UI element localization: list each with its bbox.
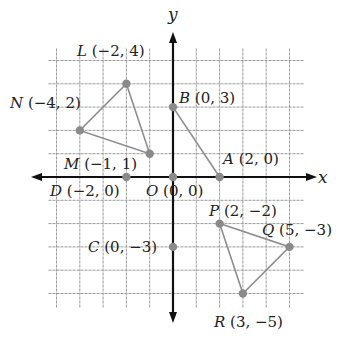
point-M <box>146 150 154 158</box>
x-axis-label: x <box>318 169 328 186</box>
y-axis-up-arrow-icon <box>169 32 177 43</box>
point-Q <box>285 243 293 251</box>
x-axis-right-arrow-icon <box>306 173 317 181</box>
point-L <box>122 80 130 88</box>
label-A: A (2, 0) <box>223 152 279 167</box>
triangle-LMN <box>80 84 150 154</box>
label-N: N (−4, 2) <box>10 96 81 111</box>
label-B: B (0, 3) <box>179 91 235 106</box>
label-C: C (0, −3) <box>88 240 157 255</box>
label-P: P (2, −2) <box>209 204 277 219</box>
point-A <box>215 173 223 181</box>
plane-svg <box>0 0 346 341</box>
point-P <box>215 219 223 227</box>
label-D: D (−2, 0) <box>50 184 120 199</box>
point-B <box>169 103 177 111</box>
y-axis-down-arrow-icon <box>169 312 177 323</box>
label-Q: Q (5, −3) <box>262 223 332 238</box>
point-C <box>169 243 177 251</box>
x-axis-left-arrow-icon <box>31 173 42 181</box>
point-R <box>239 289 247 297</box>
label-M: M (−1, 1) <box>64 157 137 172</box>
label-R: R (3, −5) <box>214 315 283 330</box>
point-O <box>169 173 177 181</box>
point-N <box>76 126 84 134</box>
coordinate-plane-diagram: y x L (−2, 4) N (−4, 2) M (−1, 1) B (0, … <box>0 0 346 341</box>
y-axis-label: y <box>168 6 178 23</box>
point-D <box>122 173 130 181</box>
label-L: L (−2, 4) <box>77 44 145 59</box>
label-O: O (0, 0) <box>146 184 203 199</box>
